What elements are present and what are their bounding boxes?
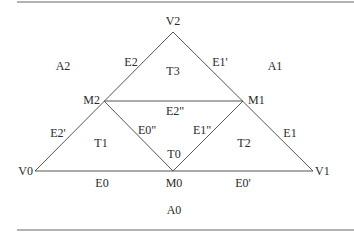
vertex-label-m1: M1 bbox=[248, 93, 265, 107]
triangle-label-t2: T2 bbox=[237, 136, 250, 150]
edge-label-e1p: E1' bbox=[212, 55, 228, 69]
edge-label-e2: E2 bbox=[124, 55, 137, 69]
edge-label-e2p: E2' bbox=[50, 126, 66, 140]
triangle-subdivision-diagram: V2 M2 M1 V0 V1 M0 E2 E1' E2" E2' E0" E1"… bbox=[0, 0, 354, 232]
edge-label-e0pp: E0" bbox=[138, 123, 156, 137]
vertex-label-v0: V0 bbox=[18, 164, 33, 178]
vertex-label-v1: V1 bbox=[315, 164, 330, 178]
edge-label-e0: E0 bbox=[95, 176, 108, 190]
region-label-a2: A2 bbox=[56, 59, 71, 73]
edge-label-e2pp: E2" bbox=[166, 104, 184, 118]
region-label-a1: A1 bbox=[268, 59, 283, 73]
triangle-label-t0: T0 bbox=[167, 147, 180, 161]
edge-label-e1pp: E1" bbox=[193, 123, 211, 137]
triangle-label-t3: T3 bbox=[166, 64, 179, 78]
vertex-label-m0: M0 bbox=[166, 176, 183, 190]
triangle-label-t1: T1 bbox=[94, 136, 107, 150]
edge-label-e1: E1 bbox=[283, 126, 296, 140]
region-label-a0: A0 bbox=[167, 203, 182, 217]
edge-label-e0p: E0' bbox=[235, 176, 251, 190]
vertex-label-m2: M2 bbox=[83, 93, 100, 107]
vertex-label-v2: V2 bbox=[166, 14, 181, 28]
